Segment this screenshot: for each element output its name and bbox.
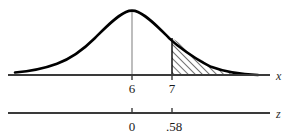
tail-hatching xyxy=(168,30,263,78)
z-axis-label: z xyxy=(276,108,281,120)
distribution-plot xyxy=(0,0,293,139)
normal-distribution-figure: 6 7 0 .58 x z xyxy=(0,0,293,139)
x-tick-label-boundary: 7 xyxy=(169,82,176,95)
z-tick-label-boundary: .58 xyxy=(166,120,182,133)
x-tick-label-mean: 6 xyxy=(129,82,136,95)
x-axis-label: x xyxy=(276,70,281,82)
shaded-tail-region xyxy=(168,30,263,78)
normal-curve xyxy=(15,11,258,75)
z-tick-label-mean: 0 xyxy=(129,120,136,133)
